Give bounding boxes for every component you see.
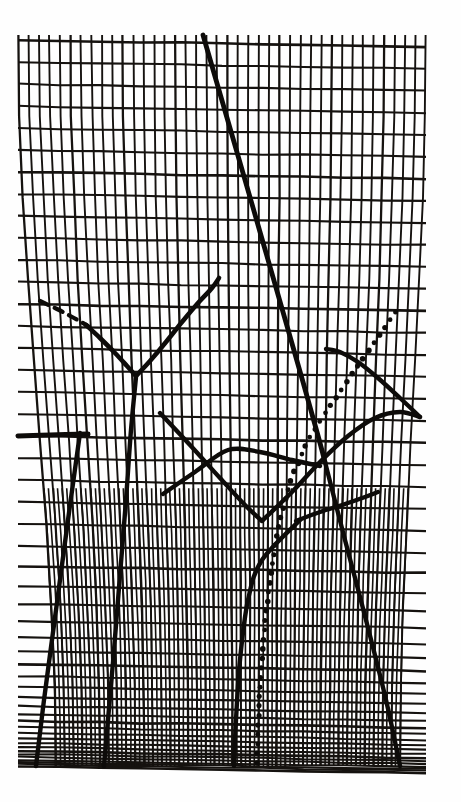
artwork-canvas: Perspective Grid With Overlaid Line Figu… <box>0 0 461 802</box>
line-drawing-svg <box>0 0 461 802</box>
